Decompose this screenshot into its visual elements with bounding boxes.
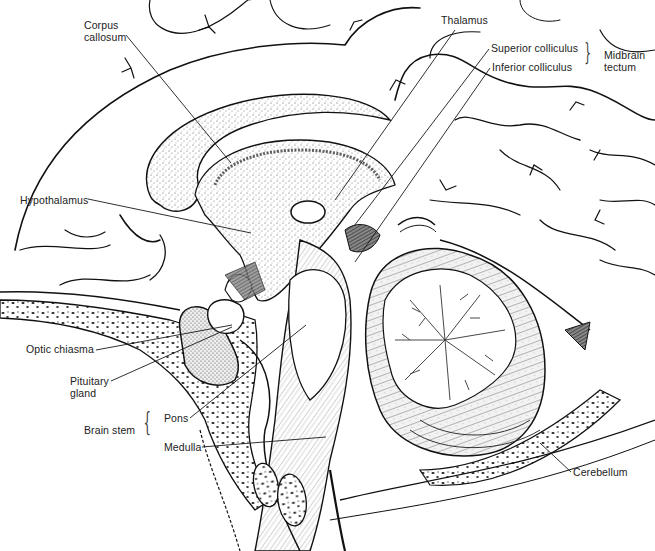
label-pituitary-gland: Pituitary gland xyxy=(70,375,109,399)
label-optic-chiasma: Optic chiasma xyxy=(26,343,94,355)
label-thalamus: Thalamus xyxy=(441,14,488,26)
group-label-brain-stem: Brain stem xyxy=(84,424,135,436)
brace-midbrain-tectum-icon: } xyxy=(584,40,591,64)
label-hypothalamus: Hypothalamus xyxy=(20,194,88,206)
label-superior-colliculus: Superior colliculus xyxy=(491,42,578,54)
label-pons: Pons xyxy=(164,412,188,424)
brain-diagram: Corpus callosum Thalamus Superior collic… xyxy=(0,0,655,551)
label-medulla: Medulla xyxy=(164,441,201,453)
brace-brain-stem-icon: { xyxy=(144,409,151,435)
label-cerebellum: Cerebellum xyxy=(573,466,628,478)
interthalamic-adhesion xyxy=(291,201,325,223)
brain-illustration xyxy=(0,0,655,551)
label-corpus-callosum: Corpus callosum xyxy=(84,19,126,43)
pituitary-shape xyxy=(208,300,244,333)
group-label-midbrain-tectum: Midbrain tectum xyxy=(604,49,645,73)
label-inferior-colliculus: Inferior colliculus xyxy=(492,61,572,73)
